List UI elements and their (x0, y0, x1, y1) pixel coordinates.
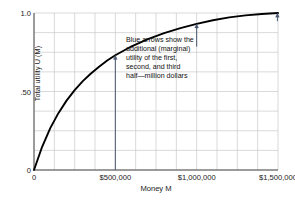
x-axis-title: Money M (34, 184, 278, 193)
annotation-marginal-utility: Blue arrows show the additional (margina… (126, 36, 226, 81)
x-tick-label-15m: $1,500,000 (259, 173, 295, 182)
y-tick-label-0: 0 (27, 166, 31, 175)
arrow-first-half-million (113, 55, 117, 170)
y-axis-title: Total utility U (M) (33, 14, 42, 134)
x-axis-title-text: Money M (140, 184, 171, 193)
utility-curve-figure: 1.0 .50 0 Total utility U (M) 0 $500,000… (0, 0, 295, 204)
y-tick-label-1: 1.0 (20, 9, 31, 18)
annotation-line-3: utility of the first, (126, 54, 226, 63)
annotation-line-1: Blue arrows show the (126, 36, 226, 45)
y-tick-label-050: .50 (20, 87, 31, 96)
annotation-line-5: half—million dollars (126, 72, 226, 81)
x-tick-label-0: 0 (32, 173, 36, 182)
x-tick-label-1m: $1,000,000 (178, 173, 216, 182)
y-axis-title-text: Total utility U (M) (33, 46, 42, 101)
arrow-third-half-million (276, 13, 280, 21)
annotation-line-2: additional (marginal) (126, 45, 226, 54)
annotation-line-4: second, and third (126, 63, 226, 72)
x-tick-label-500k: $500,000 (99, 173, 131, 182)
